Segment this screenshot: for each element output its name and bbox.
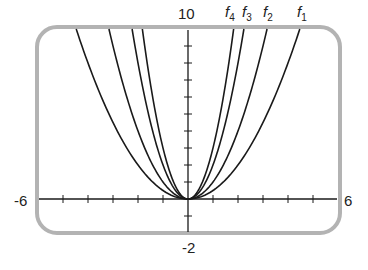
xmin-label: -6 [14,193,27,208]
ymin-label: -2 [182,240,195,255]
curve-label-f3: f3 [242,4,252,23]
curve-label-f1: f1 [297,4,307,23]
curve-label-f2: f2 [263,4,273,23]
axes [39,30,337,232]
xmax-label: 6 [344,193,352,208]
curve-label-f4: f4 [225,4,235,23]
ymax-label: 10 [178,6,195,21]
graph-screen [0,0,368,270]
